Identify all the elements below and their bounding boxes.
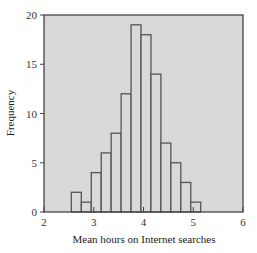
y-tick-label: 0 bbox=[32, 206, 38, 218]
histogram-chart: 05101520 23456 Frequency Mean hours on I… bbox=[0, 0, 257, 253]
histogram-bar bbox=[171, 163, 181, 212]
histogram-bar bbox=[151, 74, 161, 212]
histogram-bar bbox=[141, 35, 151, 212]
histogram-bar bbox=[71, 192, 81, 212]
x-tick-label: 3 bbox=[91, 216, 97, 228]
histogram-bar bbox=[121, 94, 131, 212]
histogram-bar bbox=[81, 202, 91, 212]
x-tick-label: 6 bbox=[240, 216, 246, 228]
histogram-bar bbox=[101, 153, 111, 212]
y-tick-label: 10 bbox=[26, 108, 38, 120]
y-tick-label: 5 bbox=[32, 157, 38, 169]
y-tick-label: 15 bbox=[26, 58, 38, 70]
x-tick-label: 4 bbox=[141, 216, 147, 228]
y-axis: 05101520 bbox=[26, 9, 44, 218]
x-tick-label: 5 bbox=[191, 216, 197, 228]
x-axis-label: Mean hours on Internet searches bbox=[73, 233, 216, 245]
histogram-bar bbox=[91, 173, 101, 212]
histogram-bar bbox=[131, 25, 141, 212]
histogram-bar bbox=[191, 202, 201, 212]
histogram-bar bbox=[181, 182, 191, 212]
x-tick-label: 2 bbox=[41, 216, 47, 228]
histogram-bar bbox=[111, 133, 121, 212]
plot-area bbox=[44, 15, 243, 212]
histogram-bar bbox=[161, 143, 171, 212]
y-tick-label: 20 bbox=[26, 9, 38, 21]
y-axis-label: Frequency bbox=[4, 89, 16, 136]
